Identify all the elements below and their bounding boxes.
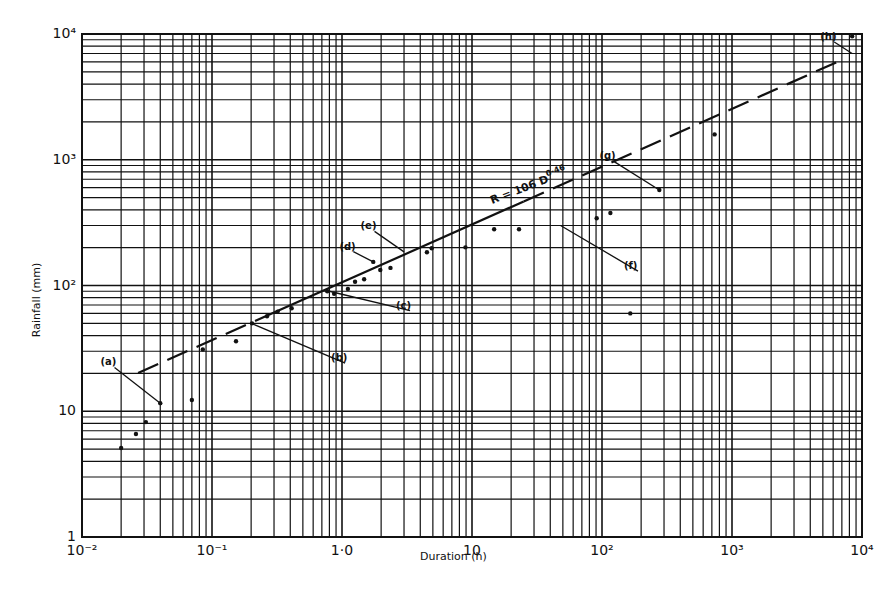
annotation-leader — [375, 231, 404, 252]
data-point — [378, 268, 382, 272]
data-point — [430, 246, 434, 250]
x-tick-label: 1·0 — [331, 542, 353, 558]
y-tick-label: 10³ — [53, 151, 76, 167]
data-point — [346, 287, 350, 291]
annotation-label: (g) — [599, 150, 615, 161]
x-axis-title: Duration (h) — [420, 550, 487, 563]
data-point — [594, 216, 598, 220]
data-point — [325, 289, 329, 293]
annotation-label: (a) — [101, 356, 117, 367]
data-point — [608, 211, 612, 215]
fit-line-solid — [274, 201, 524, 312]
x-tick-label: 10² — [590, 542, 613, 558]
data-point — [353, 280, 357, 284]
annotation-leader — [353, 252, 373, 262]
data-point — [275, 309, 279, 313]
y-tick-label: 1 — [67, 528, 76, 544]
data-point — [234, 339, 238, 343]
y-tick-label: 10⁴ — [53, 25, 77, 41]
data-point — [119, 446, 123, 450]
data-point — [144, 420, 148, 424]
data-point — [517, 227, 521, 231]
annotation-label: (b) — [331, 352, 347, 363]
y-tick-label: 10² — [53, 277, 76, 293]
data-point — [362, 277, 366, 281]
data-point — [712, 132, 716, 136]
data-point — [388, 266, 392, 270]
data-point — [265, 314, 269, 318]
annotation-label: (e) — [361, 220, 377, 231]
rainfall-duration-chart: (a)(b)(c)(d)(e)(f)(g)(h) 10⁻²10⁻¹1·01010… — [0, 0, 893, 593]
x-tick-label: 10⁻² — [67, 542, 98, 558]
data-point — [425, 250, 429, 254]
data-point — [628, 311, 632, 315]
annotation-label: (h) — [820, 31, 836, 42]
point-annotations: (a)(b)(c)(d)(e)(f)(g)(h) — [101, 31, 853, 403]
x-tick-label: 10⁴ — [850, 542, 874, 558]
x-tick-label: 10⁻¹ — [197, 542, 228, 558]
data-point — [463, 245, 467, 249]
x-tick-label: 10³ — [720, 542, 743, 558]
annotation-label: (d) — [339, 241, 355, 252]
data-point — [289, 306, 293, 310]
annotation-label: (c) — [396, 300, 411, 311]
annotation-label: (f) — [624, 260, 638, 271]
y-tick-label: 10 — [58, 402, 76, 418]
y-axis-tick-labels: 11010²10³10⁴ — [53, 25, 77, 544]
data-point — [201, 347, 205, 351]
log-grid — [82, 34, 862, 537]
data-point — [850, 34, 854, 38]
data-point — [492, 227, 496, 231]
y-axis-title: Rainfall (mm) — [30, 263, 43, 337]
data-points — [119, 34, 854, 450]
data-point — [190, 398, 194, 402]
data-point — [134, 432, 138, 436]
